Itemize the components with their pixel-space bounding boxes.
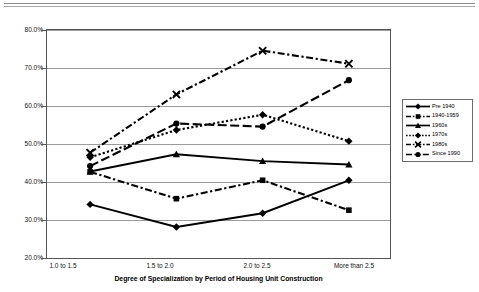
legend-marker-square-dashdot-icon (405, 112, 431, 121)
legend-label-1970s: 1970s (431, 132, 447, 138)
legend-label-since-1990: Since 1990 (431, 151, 460, 157)
x-tick-label-2: 2.0 to 2.5 (212, 263, 302, 270)
series-1980s (87, 47, 353, 156)
y-tick-label-30: 30.0% (3, 217, 43, 224)
legend-marker-diamond-solid-icon (405, 102, 431, 111)
legend-item-1960s[interactable]: 1960s (405, 121, 470, 131)
y-tick-label-80: 80.0% (3, 27, 43, 34)
y-tick-label-50: 50.0% (3, 141, 43, 148)
legend-marker-triangle-solid-icon (405, 121, 431, 130)
y-tick-label-70: 70.0% (3, 65, 43, 72)
series-plot (47, 30, 392, 260)
legend-item-1970s[interactable]: 1970s (405, 131, 470, 141)
legend-label-pre-1940: Pre 1940 (431, 104, 455, 110)
x-tick-label-0: 1.0 to 1.5 (18, 263, 108, 270)
x-axis-title: Degree of Specialization by Period of Ho… (46, 276, 391, 283)
legend-marker-diamond-dotted-icon (405, 131, 431, 140)
chart-page: 80.0% 70.0% 60.0% 50.0% 40.0% 30.0% 20.0… (0, 0, 479, 292)
series-1960s (87, 151, 353, 175)
legend-item-1980s[interactable]: 1980s (405, 140, 470, 150)
header-rule-top (4, 3, 475, 4)
x-tick-label-1: 1.5 to 2.0 (115, 263, 205, 270)
plot-area (46, 29, 391, 259)
legend-item-1940-1959[interactable]: 1940-1959 (405, 112, 470, 122)
series-1970s (86, 111, 352, 161)
legend-marker-x-dashdot-icon (405, 140, 431, 149)
series-1940-1959 (87, 169, 351, 213)
legend: Pre 1940 1940-1959 1960s 1970s 1980s Sin… (402, 99, 473, 162)
legend-label-1980s: 1980s (431, 142, 447, 148)
legend-marker-circle-longdash-icon (405, 150, 431, 159)
series-pre-1940 (86, 177, 352, 231)
legend-label-1960s: 1960s (431, 123, 447, 129)
y-tick-label-40: 40.0% (3, 179, 43, 186)
legend-item-since-1990[interactable]: Since 1990 (405, 150, 470, 160)
y-tick-label-20: 20.0% (3, 255, 43, 262)
y-tick-label-60: 60.0% (3, 103, 43, 110)
legend-label-1940-1959: 1940-1959 (431, 113, 459, 119)
x-tick-label-3: More than 2.5 (309, 263, 399, 270)
header-rule-bottom (4, 6, 475, 7)
legend-item-pre-1940[interactable]: Pre 1940 (405, 102, 470, 112)
